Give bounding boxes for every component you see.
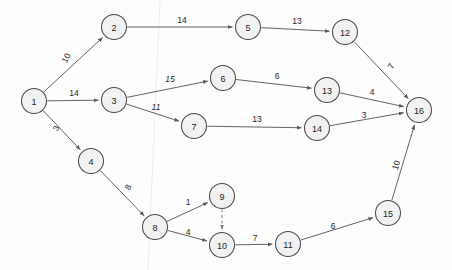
graph-edge xyxy=(235,244,272,245)
graph-node-16[interactable]: 16 xyxy=(407,98,432,123)
edge-weight-label: 7 xyxy=(385,61,396,70)
node-label: 9 xyxy=(219,192,224,202)
edge-weight-label: 10 xyxy=(390,159,403,171)
graph-node-9[interactable]: 9 xyxy=(210,184,235,209)
graph-node-1[interactable]: 1 xyxy=(22,89,47,114)
node-label: 4 xyxy=(88,157,93,167)
node-label: 11 xyxy=(283,240,292,250)
edge-weight-label: 4 xyxy=(370,87,375,97)
node-label: 1 xyxy=(31,97,36,107)
graph-node-10[interactable]: 10 xyxy=(210,233,235,258)
edge-weight-label: 15 xyxy=(165,74,175,84)
edge-weight-label: 14 xyxy=(177,15,187,25)
edges-layer xyxy=(43,27,414,245)
node-label: 15 xyxy=(383,209,393,219)
node-label: 7 xyxy=(191,122,196,132)
graph-node-4[interactable]: 4 xyxy=(79,149,104,174)
edge-weight-label: 1 xyxy=(186,197,191,207)
node-label: 14 xyxy=(312,124,322,134)
graph-node-8[interactable]: 8 xyxy=(143,215,168,240)
graph-node-14[interactable]: 14 xyxy=(305,116,330,141)
network-diagram-canvas: 10143141511813613147674310 1234567891011… xyxy=(0,0,452,270)
graph-node-11[interactable]: 11 xyxy=(276,232,301,257)
graph-edge xyxy=(44,38,103,92)
graph-node-13[interactable]: 13 xyxy=(315,78,340,103)
node-label: 5 xyxy=(245,23,250,33)
edge-labels-layer: 10143141511813613147674310 xyxy=(50,15,402,243)
edge-weight-label: 6 xyxy=(331,221,336,231)
graph-edge xyxy=(330,113,403,126)
graph-node-7[interactable]: 7 xyxy=(182,114,207,139)
graph-node-15[interactable]: 15 xyxy=(376,201,401,226)
graph-edge xyxy=(100,171,144,216)
graph-edge xyxy=(47,100,98,101)
node-label: 16 xyxy=(414,106,424,116)
node-label: 3 xyxy=(111,96,116,106)
edge-weight-label: 8 xyxy=(122,183,133,192)
nodes-layer: 12345678910111213141516 xyxy=(22,15,432,258)
graph-node-6[interactable]: 6 xyxy=(211,66,236,91)
graph-node-12[interactable]: 12 xyxy=(333,20,358,45)
graph-node-2[interactable]: 2 xyxy=(102,15,127,40)
graph-edge xyxy=(301,218,373,240)
edge-weight-label: 11 xyxy=(152,102,161,112)
graph-node-5[interactable]: 5 xyxy=(236,15,261,40)
edge-weight-label: 4 xyxy=(186,227,191,237)
network-graph-svg: 10143141511813613147674310 1234567891011… xyxy=(0,0,452,270)
node-label: 12 xyxy=(340,28,350,38)
edge-weight-label: 7 xyxy=(253,233,258,243)
graph-node-3[interactable]: 3 xyxy=(102,88,127,113)
edge-weight-label: 13 xyxy=(252,114,262,124)
edge-weight-label: 3 xyxy=(362,110,367,120)
edge-weight-label: 6 xyxy=(275,71,280,81)
edge-weight-label: 10 xyxy=(59,51,72,64)
node-label: 10 xyxy=(217,241,227,251)
node-label: 2 xyxy=(111,23,116,33)
graph-edge xyxy=(43,111,80,150)
edge-weight-label: 13 xyxy=(292,16,302,26)
node-label: 8 xyxy=(152,223,157,233)
node-label: 6 xyxy=(220,74,225,84)
graph-edge xyxy=(354,42,408,99)
node-label: 13 xyxy=(322,86,332,96)
edge-weight-label: 14 xyxy=(69,88,79,98)
graph-edge xyxy=(207,126,301,128)
graph-edge xyxy=(261,28,329,32)
